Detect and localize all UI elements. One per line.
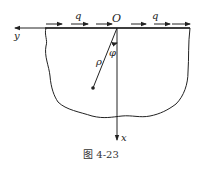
body-outline (45, 28, 190, 118)
load-label-left: q (75, 10, 81, 21)
angle-label: φ (109, 47, 116, 58)
y-axis-label: y (13, 30, 20, 41)
point-marker (91, 86, 95, 90)
load-label-right: q (152, 10, 158, 21)
figure-caption: 图 4-23 (83, 149, 119, 160)
angle-arc (111, 42, 117, 43)
radius-label: ρ (95, 56, 102, 67)
x-axis-label: x (121, 132, 127, 143)
figure-diagram: O q q y x ρ φ 图 4-23 (0, 0, 203, 173)
origin-label: O (112, 12, 121, 25)
